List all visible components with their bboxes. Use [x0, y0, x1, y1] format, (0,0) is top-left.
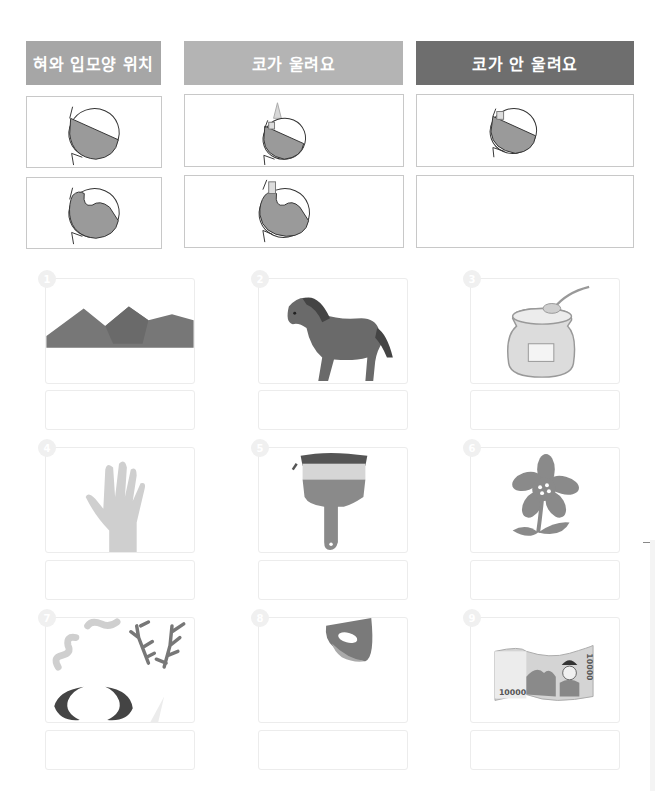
- hand-icon: [46, 448, 194, 552]
- oral-tongue-tip-diagram-icon: [417, 95, 633, 166]
- answer-box-4[interactable]: [45, 560, 195, 600]
- bell-icon: [259, 618, 407, 722]
- picture-card-bell: [258, 617, 408, 723]
- picture-card-horse: [258, 278, 408, 384]
- picture-card-paintbrush: [258, 447, 408, 553]
- horns-antlers-icon: [46, 618, 194, 722]
- answer-box-3[interactable]: [470, 390, 620, 430]
- horse-icon: [259, 279, 407, 383]
- banknote-value-left: 10000: [499, 688, 527, 697]
- answer-box-7[interactable]: [45, 730, 195, 770]
- banknote-icon: 10000 10000: [471, 618, 619, 722]
- card-number-badge: 2: [251, 270, 269, 288]
- header-non-nasal: 코가 안 울려요: [416, 41, 634, 85]
- tongue-back-diagram-icon: [27, 178, 161, 248]
- answer-box-9[interactable]: [470, 730, 620, 770]
- card-number-badge: 6: [463, 439, 481, 457]
- empty-diagram-cell: [416, 175, 634, 248]
- tongue-tip-diagram-cell: [26, 96, 162, 168]
- picture-card-banknote: 10000 10000: [470, 617, 620, 723]
- card-number-badge: 7: [38, 609, 56, 627]
- picture-card-mountains: [45, 278, 195, 384]
- picture-card-flower: [470, 447, 620, 553]
- answer-box-2[interactable]: [258, 390, 408, 430]
- mountains-icon: [46, 279, 194, 383]
- honey-jar-icon: [471, 279, 619, 383]
- picture-card-horns: [45, 617, 195, 723]
- card-number-badge: 9: [463, 609, 481, 627]
- picture-card-honey-jar: [470, 278, 620, 384]
- card-number-badge: 3: [463, 270, 481, 288]
- oral-tongue-tip-diagram-cell: [416, 94, 634, 167]
- card-number-badge: 8: [251, 609, 269, 627]
- tongue-tip-diagram-icon: [27, 97, 161, 167]
- card-number-badge: 1: [38, 270, 56, 288]
- answer-box-8[interactable]: [258, 730, 408, 770]
- banknote-value-right: 10000: [585, 653, 594, 681]
- card-number-badge: 5: [251, 439, 269, 457]
- paintbrush-icon: [259, 448, 407, 552]
- nasal-tongue-back-diagram-icon: [185, 176, 403, 247]
- nasal-tongue-back-diagram-cell: [184, 175, 404, 248]
- flower-icon: [471, 448, 619, 552]
- nasal-tongue-tip-diagram-icon: [185, 95, 403, 166]
- tongue-back-diagram-cell: [26, 177, 162, 249]
- header-tongue-position: 혀와 입모양 위치: [26, 41, 161, 85]
- page-edge-strip: [650, 540, 655, 791]
- answer-box-5[interactable]: [258, 560, 408, 600]
- answer-box-6[interactable]: [470, 560, 620, 600]
- picture-card-hand: [45, 447, 195, 553]
- answer-box-1[interactable]: [45, 390, 195, 430]
- header-nasal: 코가 울려요: [184, 41, 403, 85]
- nasal-tongue-tip-diagram-cell: [184, 94, 404, 167]
- card-number-badge: 4: [38, 439, 56, 457]
